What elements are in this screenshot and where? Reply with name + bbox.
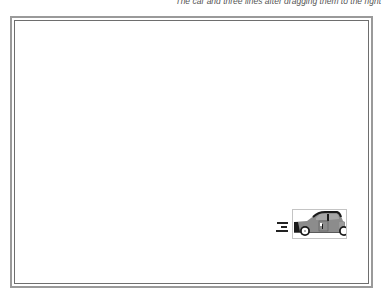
line-2[interactable]	[281, 226, 287, 228]
canvas-inner-border	[14, 20, 369, 284]
car-icon	[293, 210, 346, 238]
figure-caption: The car and three lines after dragging t…	[175, 0, 381, 6]
three-lines-group[interactable]	[276, 220, 292, 234]
car-object[interactable]	[292, 209, 347, 239]
drawing-canvas[interactable]	[10, 16, 373, 288]
line-1[interactable]	[277, 222, 288, 224]
line-3[interactable]	[276, 230, 288, 232]
